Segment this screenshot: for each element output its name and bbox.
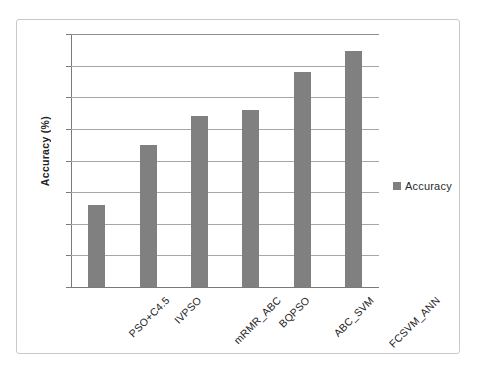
y-axis-tick-mark — [66, 224, 71, 225]
y-axis-tick-mark — [66, 97, 71, 98]
gridline — [71, 224, 379, 225]
gridline — [71, 192, 379, 193]
y-axis-tick-mark — [66, 192, 71, 193]
legend-label-accuracy: Accuracy — [405, 180, 452, 192]
plot-area — [71, 34, 379, 287]
gridline — [71, 129, 379, 130]
y-axis-tick-mark — [66, 287, 71, 288]
bar — [140, 145, 157, 287]
chart-legend: Accuracy — [393, 180, 452, 192]
y-axis-tick-mark — [66, 129, 71, 130]
y-axis-tick-mark — [66, 66, 71, 67]
gridline — [71, 34, 379, 35]
gridline — [71, 97, 379, 98]
bar — [242, 110, 259, 287]
y-axis-tick-mark — [66, 255, 71, 256]
legend-swatch-accuracy — [393, 182, 401, 190]
gridline — [71, 66, 379, 67]
bar — [88, 205, 105, 287]
y-axis-tick-mark — [66, 34, 71, 35]
y-axis-title: Accuracy (%) — [39, 116, 55, 186]
bar — [294, 72, 311, 287]
gridline — [71, 161, 379, 162]
bar — [191, 116, 208, 287]
gridline — [71, 255, 379, 256]
y-axis-tick-mark — [66, 161, 71, 162]
gridline — [71, 287, 379, 288]
bar — [345, 51, 362, 287]
